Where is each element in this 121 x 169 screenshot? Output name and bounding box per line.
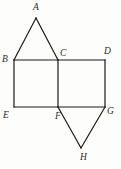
vertex-label-g: G: [107, 106, 114, 116]
geometry-diagram: [0, 0, 121, 169]
edge-A-B: [14, 18, 36, 60]
vertex-label-h: H: [80, 152, 87, 162]
vertex-label-e: E: [3, 110, 9, 120]
vertex-label-b: B: [2, 54, 8, 64]
edge-G-H: [81, 107, 105, 148]
edge-group: [14, 18, 105, 148]
geometry-figure: ABCDEFGH: [0, 0, 121, 169]
edge-F-H: [58, 107, 81, 148]
edge-A-C: [36, 18, 58, 60]
vertex-label-a: A: [33, 2, 39, 12]
vertex-label-c: C: [60, 48, 66, 58]
vertex-label-f: F: [55, 111, 61, 121]
vertex-label-d: D: [104, 46, 111, 56]
